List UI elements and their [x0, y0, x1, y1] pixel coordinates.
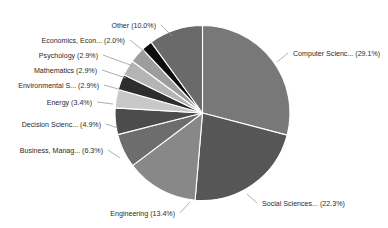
pie-slice-label: Computer Scienc... (29.1%): [293, 50, 380, 58]
pie-slice-label: Engineering (13.4%): [110, 210, 175, 218]
pie-slice-label: Energy (3.4%): [47, 99, 92, 107]
pie-slice-label: Psychology (2.9%): [39, 52, 98, 60]
pie-slice-label: Environmental S... (2.9%): [18, 82, 99, 90]
pie-slice-label: Other (10.0%): [111, 22, 156, 30]
pie-slice-label: Decision Scienc... (4.9%): [22, 121, 101, 129]
pie-slice-label: Economics, Econ... (2.0%): [41, 37, 125, 45]
pie-slice-label: Social Sciences... (22.3%): [262, 200, 345, 208]
pie-chart-canvas: Computer Scienc... (29.1%)Social Science…: [0, 0, 388, 228]
pie-chart-figure: Computer Scienc... (29.1%)Social Science…: [0, 0, 388, 228]
pie-slice-label: Business, Manag... (6.3%): [20, 147, 103, 155]
pie-slices-group: [115, 26, 290, 201]
pie-slice-label: Mathematics (2.9%): [34, 67, 97, 75]
